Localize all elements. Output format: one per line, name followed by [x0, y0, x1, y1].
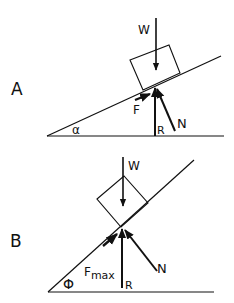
diagram-b: B W Fmax R N Φ [10, 157, 214, 292]
inclined-plane-force-diagrams: A W F R N α B W Fmax R N Φ [0, 0, 234, 303]
friction-subscript-max: max [91, 269, 115, 282]
panel-label-b: B [10, 231, 22, 251]
friction-label-b: Fmax [84, 265, 115, 282]
angle-label-phi: Φ [63, 276, 74, 292]
normal-label-a: N [177, 116, 187, 131]
diagram-a: A W F R N α [11, 18, 224, 137]
normal-arrow-b [125, 230, 157, 271]
panel-label-a: A [11, 79, 23, 99]
normal-label-b: N [157, 261, 167, 276]
reaction-label-a: R [157, 124, 165, 137]
block-a [130, 45, 180, 90]
reaction-label-b: R [125, 279, 133, 292]
weight-label-b: W [128, 159, 140, 173]
friction-label-a: F [133, 103, 140, 117]
angle-label-alpha: α [72, 123, 80, 137]
weight-label-a: W [138, 23, 150, 37]
